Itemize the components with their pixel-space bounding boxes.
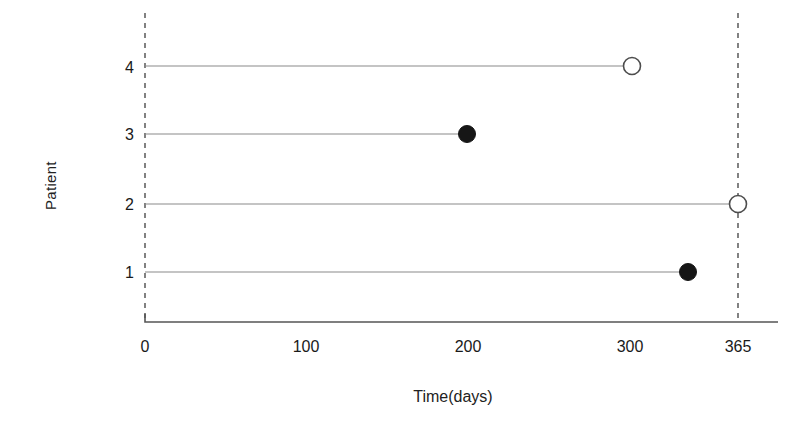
plot-area [0,0,806,428]
marker-event-patient-1 [680,264,697,281]
survival-timeline-chart: Patient 4 3 2 1 0 100 200 300 365 Time(d… [0,0,806,428]
x-axis-line [145,314,778,322]
marker-censored-patient-4 [624,58,641,75]
marker-event-patient-3 [459,126,476,143]
marker-censored-patient-2 [730,196,747,213]
